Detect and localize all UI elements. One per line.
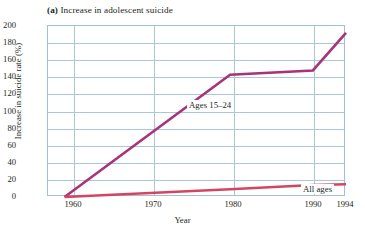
x-tick-1994: 1994 [336,199,353,209]
y-tick-0: 0 [0,192,16,201]
y-tick-20: 20 [0,174,16,183]
chart-title-tag: (a) [47,5,58,15]
y-tick-60: 60 [0,140,16,149]
plot-area: Ages 15–24 All ages [47,25,345,196]
y-tick-140: 140 [0,72,16,81]
x-axis-title: Year [0,215,365,225]
y-tick-40: 40 [0,157,16,166]
y-tick-80: 80 [0,123,16,132]
figure-container: (a) Increase in adolescent suicide Incre… [0,0,365,237]
x-tick-1960: 1960 [64,199,81,209]
chart-title-text: Increase in adolescent suicide [58,5,173,15]
y-tick-200: 200 [0,21,16,30]
x-tick-1980: 1980 [224,199,241,209]
series-label-all-ages: All ages [301,184,334,194]
y-tick-160: 160 [0,55,16,64]
y-tick-120: 120 [0,89,16,98]
x-tick-1970: 1970 [144,199,161,209]
data-series-layer [48,26,346,197]
line-ages-15-24 [65,33,346,197]
y-tick-100: 100 [0,106,16,115]
chart-title: (a) Increase in adolescent suicide [47,4,173,16]
x-tick-1990: 1990 [304,199,321,209]
y-tick-180: 180 [0,38,16,47]
series-label-ages-15-24: Ages 15–24 [187,100,233,110]
